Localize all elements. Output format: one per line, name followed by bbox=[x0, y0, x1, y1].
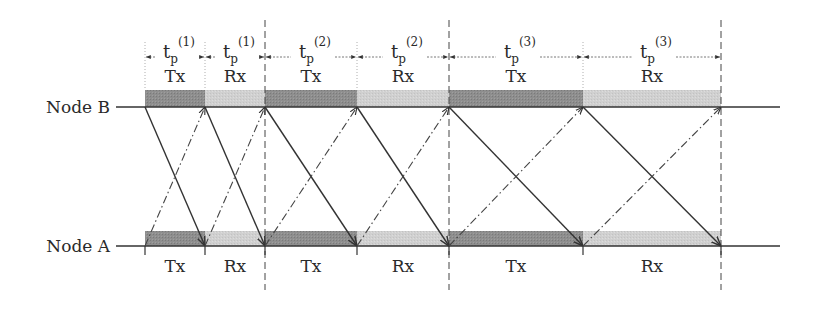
interval-label-top: Rx bbox=[392, 66, 415, 86]
tp-label: tp(1) bbox=[223, 35, 255, 66]
interval-label-top: Tx bbox=[301, 66, 322, 86]
node-label-b: Node B bbox=[46, 97, 110, 117]
tp-label: tp(2) bbox=[299, 35, 331, 66]
interval-label-top: Rx bbox=[641, 66, 664, 86]
interval-label-bottom: Tx bbox=[301, 256, 322, 276]
interval-label-bottom: Rx bbox=[641, 256, 664, 276]
node-label-a: Node A bbox=[46, 236, 110, 256]
node-a-tx-bar bbox=[265, 231, 357, 246]
tp-label: tp(3) bbox=[640, 35, 672, 66]
interval-label-top: Tx bbox=[165, 66, 186, 86]
node-b-rx-bar bbox=[357, 90, 449, 107]
tp-label: tp(2) bbox=[391, 35, 423, 66]
interval-label-bottom: Rx bbox=[392, 256, 415, 276]
node-a-rx-bar bbox=[357, 231, 449, 246]
node-a-tx-bar bbox=[145, 231, 205, 246]
interval-label-bottom: Tx bbox=[506, 256, 527, 276]
node-b-tx-bar bbox=[145, 90, 205, 107]
node-b-tx-bar bbox=[449, 90, 583, 107]
tp-label: tp(1) bbox=[163, 35, 195, 66]
interval-label-top: Tx bbox=[506, 66, 527, 86]
node-a-rx-bar bbox=[583, 231, 721, 246]
tx-rx-timing-diagram: Node BNode ATxTxtp(1)RxRxtp(1)TxTxtp(2)R… bbox=[0, 0, 837, 312]
node-b-rx-bar bbox=[583, 90, 721, 107]
node-a-rx-bar bbox=[205, 231, 265, 246]
node-b-tx-bar bbox=[265, 90, 357, 107]
interval-label-top: Rx bbox=[224, 66, 247, 86]
interval-label-bottom: Tx bbox=[165, 256, 186, 276]
node-b-rx-bar bbox=[205, 90, 265, 107]
tp-label: tp(3) bbox=[504, 35, 536, 66]
node-a-tx-bar bbox=[449, 231, 583, 246]
interval-label-bottom: Rx bbox=[224, 256, 247, 276]
